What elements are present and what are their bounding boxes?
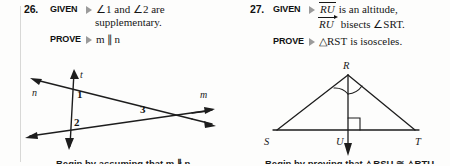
exercise-27-statements: GIVEN RU is an altitude, RU bisects ∠SRT… <box>273 3 405 48</box>
angle-label-1: 1 <box>77 88 83 100</box>
parallel-symbol: ∥ <box>105 33 115 46</box>
line-label-m: m <box>200 89 207 100</box>
exercise-26-number: 26. <box>24 3 38 15</box>
triangle-marker-icon <box>86 6 92 14</box>
exercise-26-footer-text: Begin by assuming that m ∦ n. <box>56 158 206 164</box>
exercise-27-footer-text: Begin by proving that △RSU ≅ △RTU. <box>265 158 445 164</box>
exercise-27-prove-row: PROVE △ RST is isosceles. <box>273 35 405 48</box>
given-statement-line-1: ∠1 and ∠2 are <box>96 3 165 16</box>
exercise-27-column: 27. GIVEN RU is an altitude, RU bisects … <box>225 0 450 166</box>
prove-line-n: n <box>115 33 121 46</box>
vertex-label-u: U <box>336 136 345 147</box>
triangle-marker-icon <box>309 38 315 46</box>
textbook-page: 26. GIVEN ∠1 and ∠2 are supplementary. P… <box>0 0 450 166</box>
angle-label-2: 2 <box>74 116 80 128</box>
line-label-t: t <box>80 69 83 80</box>
prove-line-m: m <box>96 33 105 46</box>
given-label: GIVEN <box>50 3 85 16</box>
exercise-26-header: 26. <box>24 3 38 15</box>
vertex-label-s: S <box>264 136 270 147</box>
ray-ru-notation: RU <box>318 18 338 31</box>
vertex-label-t: T <box>415 136 422 147</box>
figure-triangle-diagram: R S U T <box>255 58 435 163</box>
vertex-label-r: R <box>342 60 350 71</box>
prove-label: PROVE <box>50 33 85 46</box>
triangle-marker-icon <box>309 6 315 14</box>
exercise-27-header: 27. <box>250 3 264 15</box>
prove-statement-rest: is isosceles. <box>347 35 402 48</box>
exercise-27-number: 27. <box>250 3 264 15</box>
exercise-26-given-row: GIVEN ∠1 and ∠2 are <box>50 3 165 16</box>
angle-label-3: 3 <box>140 103 146 115</box>
line-label-n: n <box>32 87 37 98</box>
given-statement-line-1: is an altitude, <box>336 3 398 16</box>
exercise-26-column: 26. GIVEN ∠1 and ∠2 are supplementary. P… <box>0 0 225 166</box>
exercise-26-statements: GIVEN ∠1 and ∠2 are supplementary. PROVE… <box>50 3 165 46</box>
figure-transversal-diagram: n m t 1 2 3 <box>22 66 222 156</box>
exercise-27-given-row-2: RU bisects ∠SRT. <box>318 18 405 31</box>
triangle-symbol: △ <box>319 35 327 48</box>
exercise-27-given-row: GIVEN RU is an altitude, <box>273 3 405 16</box>
prove-label: PROVE <box>273 35 308 48</box>
triangle-marker-icon <box>86 36 92 44</box>
given-statement-line-2: bisects ∠SRT. <box>338 18 405 31</box>
triangle-name-rst: RST <box>327 35 347 48</box>
given-statement-line-2: supplementary. <box>95 16 162 29</box>
exercise-26-given-row-2: supplementary. <box>95 16 165 29</box>
exercise-26-prove-row: PROVE m ∥ n <box>50 33 165 46</box>
given-label: GIVEN <box>273 3 308 16</box>
